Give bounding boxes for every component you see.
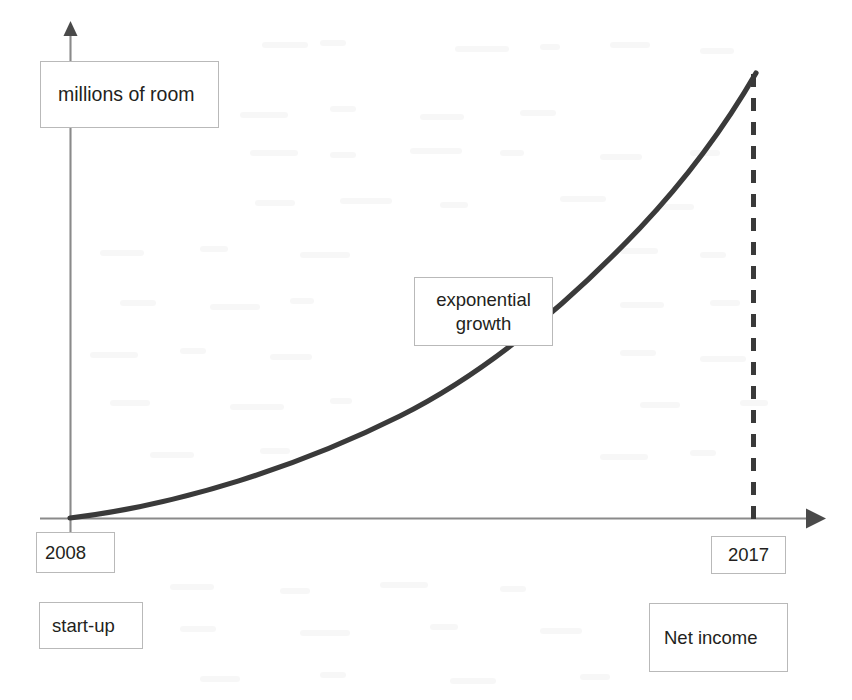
annotation-exponential-growth-box: exponential growth (414, 277, 553, 346)
phase-label-end-text: Net income (664, 626, 758, 649)
y-axis-label-text: millions of room (58, 82, 195, 107)
triangle-up-icon (64, 21, 78, 36)
annotation-line-1: exponential (436, 288, 531, 311)
triangle-right-icon (806, 509, 826, 529)
x-axis-tick-label-end-box: 2017 (711, 536, 786, 574)
x-axis-tick-label-start-box: 2008 (36, 532, 115, 573)
phase-label-end-box: Net income (649, 603, 788, 672)
exponential-growth-curve (70, 73, 756, 518)
y-axis-label-box: millions of room (40, 61, 219, 128)
phase-label-start-text: start-up (52, 614, 115, 637)
x-axis-tick-label-start-text: 2008 (45, 541, 86, 564)
phase-label-start-box: start-up (39, 602, 143, 649)
chart-canvas: millions of room exponential growth 2008… (0, 0, 852, 700)
annotation-line-2: growth (456, 312, 512, 335)
x-axis-tick-label-end-text: 2017 (728, 543, 769, 566)
